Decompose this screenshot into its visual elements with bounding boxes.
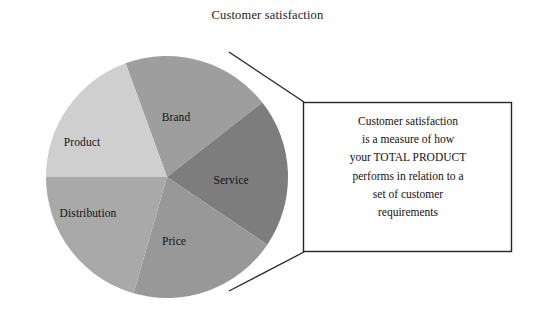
- callout-text-block: Customer satisfaction is a measure of ho…: [305, 112, 511, 221]
- callout-line-4: performs in relation to a: [305, 167, 511, 185]
- pie-label-distribution: Distribution: [60, 207, 117, 219]
- pie-label-service: Service: [213, 174, 248, 186]
- pie-label-price: Price: [162, 235, 186, 247]
- pie-chart: [46, 56, 288, 298]
- pie-label-brand: Brand: [162, 111, 191, 123]
- callout-line-1: Customer satisfaction: [305, 112, 511, 130]
- callout-line-3: your TOTAL PRODUCT: [305, 148, 511, 166]
- callout-line-5: set of customer: [305, 185, 511, 203]
- pie-label-product: Product: [64, 136, 100, 148]
- callout-line-2: is a measure of how: [305, 130, 511, 148]
- callout-line-6: requirements: [305, 203, 511, 221]
- figure-canvas: Customer satisfaction Brand Service Pric…: [0, 0, 535, 336]
